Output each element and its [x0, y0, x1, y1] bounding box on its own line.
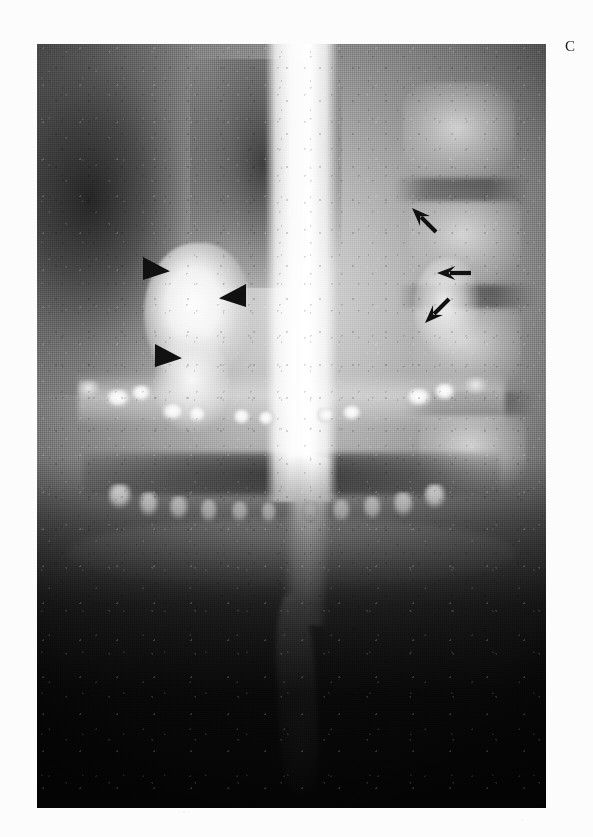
upper-tooth-10	[434, 383, 456, 401]
vertebral-body-1	[403, 82, 515, 181]
upper-tooth-9	[406, 388, 432, 408]
upper-tooth-1	[106, 389, 131, 409]
arrow-2-icon	[437, 265, 471, 281]
inferior-soft-tissue-shadow	[37, 457, 546, 808]
upper-tooth-7	[317, 408, 335, 425]
barium-column-upper	[265, 44, 339, 502]
upper-tooth-5	[233, 409, 251, 426]
figure-page: C	[0, 0, 593, 837]
upper-tooth-3	[162, 403, 185, 422]
radiograph-image	[37, 44, 546, 808]
figure-panel-label: C	[565, 38, 575, 55]
upper-tooth-4	[188, 406, 207, 424]
upper-tooth-2	[131, 385, 152, 403]
arrowhead-3-icon	[155, 344, 182, 367]
upper-tooth-11	[78, 380, 100, 398]
arrowhead-2-icon	[219, 284, 246, 307]
upper-tooth-12	[465, 377, 487, 395]
arrowhead-1-icon	[143, 257, 170, 280]
upper-tooth-8	[342, 405, 361, 423]
intervertebral-gap-1	[393, 178, 530, 201]
upper-tooth-6	[258, 411, 275, 427]
